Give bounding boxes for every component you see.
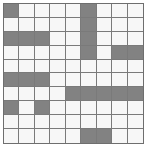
grid-cell [81, 4, 96, 18]
grid-cell [35, 32, 50, 46]
grid-cell [19, 46, 34, 60]
grid-cell [19, 129, 34, 143]
grid-cell [50, 87, 65, 101]
grid-cell [4, 87, 19, 101]
grid-cell [112, 73, 127, 87]
grid-cell [35, 4, 50, 18]
grid-cell [81, 87, 96, 101]
grid-cell [97, 32, 112, 46]
grid-cell [35, 18, 50, 32]
grid-cell [4, 129, 19, 143]
grid-cell [4, 101, 19, 115]
grid-cell [50, 18, 65, 32]
grid-cell [128, 18, 143, 32]
grid-cell [128, 32, 143, 46]
grid-cell [81, 101, 96, 115]
grid-cell [4, 46, 19, 60]
grid-cell [112, 46, 127, 60]
grid-cell [66, 101, 81, 115]
grid-frame [3, 3, 144, 144]
grid-cell [112, 101, 127, 115]
grid-cell [128, 87, 143, 101]
grid-cell [81, 129, 96, 143]
cell-grid [4, 4, 143, 143]
grid-cell [66, 18, 81, 32]
grid-cell [81, 32, 96, 46]
grid-cell [128, 73, 143, 87]
grid-cell [128, 4, 143, 18]
grid-cell [112, 32, 127, 46]
grid-cell [35, 129, 50, 143]
grid-cell [66, 129, 81, 143]
grid-cell [50, 73, 65, 87]
grid-cell [81, 115, 96, 129]
grid-cell [128, 101, 143, 115]
grid-cell [97, 115, 112, 129]
grid-cell [50, 4, 65, 18]
grid-cell [81, 73, 96, 87]
grid-cell [4, 115, 19, 129]
grid-cell [19, 4, 34, 18]
grid-cell [35, 101, 50, 115]
grid-cell [66, 115, 81, 129]
grid-cell [128, 129, 143, 143]
grid-cell [50, 32, 65, 46]
grid-cell [66, 4, 81, 18]
grid-cell [50, 46, 65, 60]
grid-cell [128, 115, 143, 129]
grid-cell [19, 18, 34, 32]
grid-cell [97, 87, 112, 101]
grid-cell [97, 46, 112, 60]
grid-cell [19, 87, 34, 101]
grid-cell [97, 101, 112, 115]
grid-cell [112, 87, 127, 101]
grid-cell [81, 18, 96, 32]
grid-cell [66, 73, 81, 87]
grid-cell [19, 101, 34, 115]
grid-cell [50, 129, 65, 143]
grid-cell [4, 18, 19, 32]
grid-cell [66, 46, 81, 60]
grid-cell [112, 129, 127, 143]
grid-cell [112, 60, 127, 74]
grid-cell [97, 73, 112, 87]
grid-cell [4, 73, 19, 87]
grid-cell [35, 115, 50, 129]
grid-cell [35, 73, 50, 87]
grid-cell [19, 73, 34, 87]
grid-cell [112, 4, 127, 18]
grid-cell [19, 32, 34, 46]
grid-cell [35, 46, 50, 60]
grid-cell [97, 60, 112, 74]
grid-cell [50, 115, 65, 129]
grid-cell [66, 32, 81, 46]
grid-cell [50, 60, 65, 74]
grid-cell [81, 60, 96, 74]
grid-cell [128, 46, 143, 60]
grid-cell [50, 101, 65, 115]
grid-cell [35, 60, 50, 74]
grid-cell [97, 18, 112, 32]
grid-cell [35, 87, 50, 101]
grid-cell [81, 46, 96, 60]
grid-cell [4, 60, 19, 74]
grid-pattern-image [0, 0, 147, 147]
grid-cell [112, 18, 127, 32]
grid-cell [66, 60, 81, 74]
grid-cell [66, 87, 81, 101]
grid-cell [97, 129, 112, 143]
grid-cell [19, 60, 34, 74]
grid-cell [128, 60, 143, 74]
grid-cell [4, 4, 19, 18]
grid-cell [19, 115, 34, 129]
grid-cell [4, 32, 19, 46]
grid-cell [97, 4, 112, 18]
grid-cell [112, 115, 127, 129]
